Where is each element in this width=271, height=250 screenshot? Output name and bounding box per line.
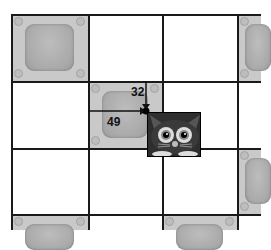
cat-icon	[148, 113, 201, 157]
cat-sprite	[147, 112, 201, 157]
offset-y-label: 32	[131, 85, 144, 99]
offset-x-label: 49	[107, 115, 120, 129]
